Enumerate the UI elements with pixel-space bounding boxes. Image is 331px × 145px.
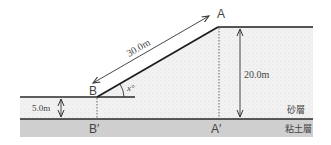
height-B-label: 5.0m [32, 103, 50, 113]
slope-diagram: 30.0m 20.0m 5.0m x° A B B′ A′ 砂層 粘土層 [0, 0, 331, 145]
slope-length-label: 30.0m [125, 36, 153, 58]
clay-layer [20, 119, 313, 137]
point-A-label: A [217, 7, 225, 21]
point-B-prime-label: B′ [89, 122, 100, 136]
point-A-prime-label: A′ [211, 122, 222, 136]
height-A-label: 20.0m [244, 69, 270, 80]
angle-label: x° [126, 83, 135, 93]
clay-layer-label: 粘土層 [285, 123, 312, 134]
point-B-label: B [89, 84, 97, 98]
sand-layer-label: 砂層 [287, 104, 305, 115]
